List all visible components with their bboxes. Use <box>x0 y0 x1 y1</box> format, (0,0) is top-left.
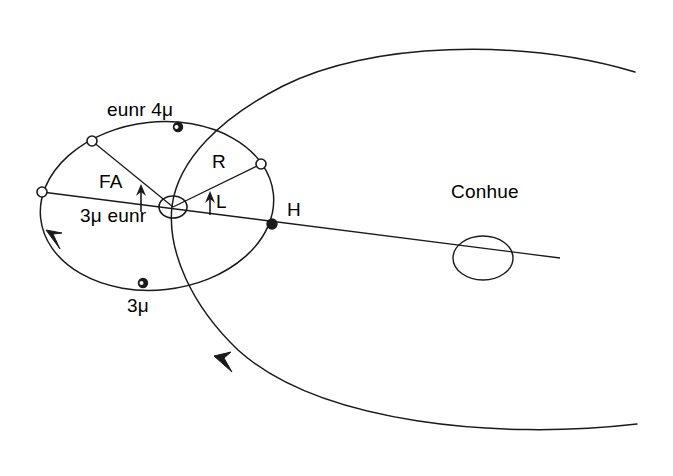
orbital-diagram <box>0 0 673 476</box>
node-left <box>37 187 47 197</box>
hyperbolic-trajectory <box>171 49 637 429</box>
label-far-body-conhue: Conhue <box>451 182 519 201</box>
label-apoapsis-top: eunr 4μ <box>107 100 173 119</box>
node-h <box>267 219 277 229</box>
label-bottom-node: 3μ <box>127 296 149 315</box>
label-radial-vector-fa: FA <box>99 172 123 191</box>
label-lat-l: L <box>216 192 227 211</box>
conhue-body <box>453 236 513 280</box>
node-upper-right <box>256 159 266 169</box>
label-radius-r: R <box>212 152 226 171</box>
node-top-highlight <box>175 125 179 129</box>
label-point-h: H <box>287 200 301 219</box>
node-upper-left <box>87 136 97 146</box>
direction-arrow-trajectory <box>214 352 232 372</box>
central-body <box>159 196 187 218</box>
node-bottom-highlight <box>140 281 144 285</box>
figure-root: eunr 4μ FA 3μ eunr 3μ R L H Conhue <box>0 0 673 476</box>
label-periapsis-left: 3μ eunr <box>80 206 146 225</box>
direction-arrow-orbit <box>46 230 62 249</box>
